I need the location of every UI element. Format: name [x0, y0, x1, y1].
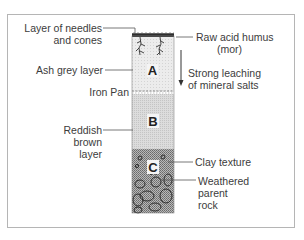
- horizon-c-letter: C: [148, 160, 158, 175]
- clay-texture-label: Clay texture: [195, 156, 251, 168]
- leaching-arrow-icon: [179, 50, 184, 86]
- horizon-b-letter: B: [148, 114, 157, 129]
- horizon-a-letter: A: [148, 63, 158, 78]
- reddish-brown-label: Reddish brown layer: [40, 124, 102, 160]
- humus-label: Raw acid humus (mor): [196, 31, 274, 55]
- ash-grey-label: Ash grey layer: [20, 64, 103, 76]
- needle-layer: [132, 33, 174, 37]
- horizon-c: [132, 149, 174, 213]
- needles-label: Layer of needles and cones: [20, 22, 102, 46]
- leaching-label: Strong leaching of mineral salts: [188, 67, 261, 91]
- iron-pan-label: Iron Pan: [40, 86, 129, 98]
- weathered-rock-label: Weathered parent rock: [198, 175, 249, 211]
